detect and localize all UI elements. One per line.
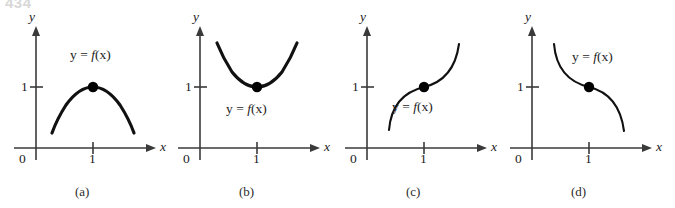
y-axis-label: y bbox=[29, 10, 35, 24]
y-axis-label: y bbox=[525, 10, 531, 24]
y-tick-label-1: 1 bbox=[517, 80, 524, 94]
marked-point-c bbox=[419, 82, 429, 92]
function-label-a-prefix: y = bbox=[70, 47, 91, 62]
panel-caption-a: (a) bbox=[75, 184, 89, 200]
origin-label: 0 bbox=[183, 152, 190, 166]
marked-point-a bbox=[88, 82, 98, 92]
x-axis-arrow bbox=[146, 144, 156, 152]
origin-label: 0 bbox=[350, 152, 357, 166]
panel-a-graph bbox=[0, 0, 168, 208]
function-label-d-arg: (x) bbox=[597, 49, 613, 64]
y-axis-arrow bbox=[32, 26, 40, 36]
x-axis-arrow bbox=[477, 144, 487, 152]
panel-b: y x 0 1 1 y = f(x) (b) bbox=[164, 0, 332, 208]
x-tick-label-1: 1 bbox=[420, 152, 427, 166]
panel-caption-b: (b) bbox=[239, 184, 254, 200]
function-label-d: y = f(x) bbox=[572, 50, 613, 64]
y-axis-arrow bbox=[363, 26, 371, 36]
x-tick-label-1: 1 bbox=[585, 152, 592, 166]
origin-label: 0 bbox=[515, 152, 522, 166]
function-label-c-prefix: y = bbox=[392, 99, 413, 114]
marked-point-d bbox=[584, 82, 594, 92]
y-axis-arrow bbox=[196, 26, 204, 36]
function-label-b-prefix: y = bbox=[226, 101, 247, 116]
function-label-c-arg: (x) bbox=[417, 99, 433, 114]
x-axis-arrow bbox=[642, 144, 652, 152]
curve-a bbox=[52, 87, 134, 133]
origin-label: 0 bbox=[19, 152, 26, 166]
panel-d-graph bbox=[496, 0, 664, 208]
panel-a: y x 0 1 1 y = f(x) (a) bbox=[0, 0, 168, 208]
y-tick-label-1: 1 bbox=[185, 80, 192, 94]
function-label-a-arg: (x) bbox=[95, 47, 111, 62]
x-axis-label: x bbox=[324, 140, 330, 154]
panel-caption-d: (d) bbox=[571, 184, 586, 200]
x-tick-label-1: 1 bbox=[253, 152, 260, 166]
y-axis-label: y bbox=[193, 10, 199, 24]
figure-container: 434 y x 0 1 1 y = f(x) (a) bbox=[0, 0, 675, 208]
function-label-b: y = f(x) bbox=[226, 102, 267, 116]
function-label-c: y = f(x) bbox=[392, 100, 433, 114]
y-axis-label: y bbox=[360, 10, 366, 24]
y-tick-label-1: 1 bbox=[352, 80, 359, 94]
panel-d: y x 0 1 1 y = f(x) (d) bbox=[496, 0, 664, 208]
curve-b bbox=[217, 43, 297, 87]
panel-caption-c: (c) bbox=[406, 184, 420, 200]
panel-c: y x 0 1 1 y = f(x) (c) bbox=[331, 0, 499, 208]
function-label-d-prefix: y = bbox=[572, 49, 593, 64]
marked-point-b bbox=[252, 82, 262, 92]
x-tick-label-1: 1 bbox=[89, 152, 96, 166]
y-tick-label-1: 1 bbox=[21, 80, 28, 94]
function-label-a: y = f(x) bbox=[70, 48, 111, 62]
y-axis-arrow bbox=[528, 26, 536, 36]
function-label-b-arg: (x) bbox=[251, 101, 267, 116]
x-axis-label: x bbox=[656, 140, 662, 154]
x-axis-arrow bbox=[310, 144, 320, 152]
